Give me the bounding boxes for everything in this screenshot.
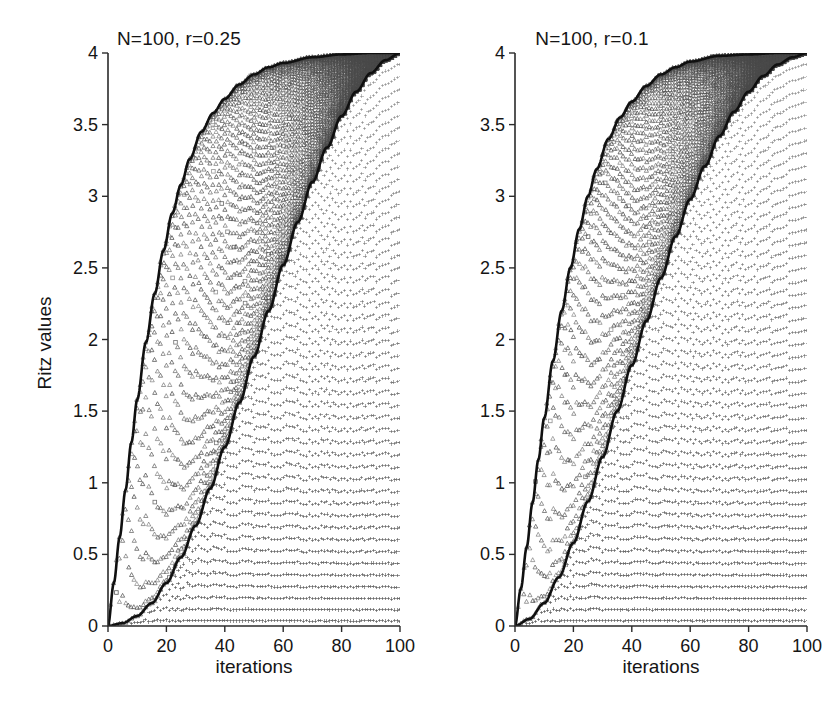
chart-panel-left: N=100, r=0.25 00.511.522.533.54 02040608… (0, 0, 430, 701)
x-tick-label: 60 (680, 636, 700, 657)
y-tick-label: 1 (447, 472, 505, 493)
y-tick-label: 0.5 (447, 544, 505, 565)
x-axis-label-right: iterations (622, 656, 699, 678)
y-tick-label: 4 (40, 43, 98, 64)
x-tick-label: 80 (739, 636, 759, 657)
y-tick-label: 3.5 (40, 114, 98, 135)
axes-frame-left (108, 53, 400, 626)
axes-frame-right (515, 53, 807, 626)
x-tick-label: 40 (622, 636, 642, 657)
y-tick-label: 0 (447, 616, 505, 637)
y-tick-label: 1.5 (40, 401, 98, 422)
x-tick-label: 80 (332, 636, 352, 657)
y-tick-label: 2 (447, 329, 505, 350)
y-tick-label: 0 (40, 616, 98, 637)
x-tick-label: 40 (215, 636, 235, 657)
x-tick-label: 0 (103, 636, 113, 657)
y-tick-label: 0.5 (40, 544, 98, 565)
y-tick-label: 3.5 (447, 114, 505, 135)
y-tick-label: 4 (447, 43, 505, 64)
x-axis-label-left: iterations (215, 656, 292, 678)
y-tick-label: 3 (447, 186, 505, 207)
y-tick-label: 2.5 (447, 257, 505, 278)
y-tick-label: 1 (40, 472, 98, 493)
y-tick-label: 2.5 (40, 257, 98, 278)
x-tick-label: 60 (273, 636, 293, 657)
x-tick-label: 0 (510, 636, 520, 657)
x-tick-label: 20 (563, 636, 583, 657)
figure-canvas: N=100, r=0.25 00.511.522.533.54 02040608… (0, 0, 837, 701)
x-tick-label: 20 (156, 636, 176, 657)
y-tick-label: 3 (40, 186, 98, 207)
x-tick-label: 100 (792, 636, 822, 657)
panel-title-right: N=100, r=0.1 (377, 28, 807, 50)
chart-panel-right: N=100, r=0.1 00.511.522.533.54 020406080… (407, 0, 837, 701)
y-tick-label: 1.5 (447, 401, 505, 422)
y-axis-label-left: Ritz values (34, 283, 56, 403)
